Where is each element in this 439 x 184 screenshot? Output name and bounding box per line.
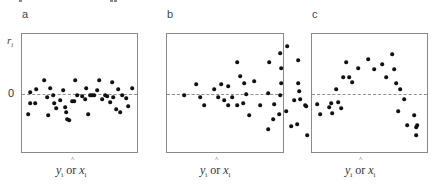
data-point — [198, 95, 202, 99]
data-point — [63, 105, 67, 109]
data-point — [247, 113, 251, 117]
data-point — [64, 110, 68, 114]
data-point — [242, 81, 246, 85]
data-point — [341, 75, 345, 79]
data-point — [396, 109, 400, 113]
data-point — [222, 98, 226, 102]
data-point — [238, 74, 242, 78]
data-point — [54, 106, 58, 110]
data-point — [28, 101, 32, 105]
data-point — [73, 78, 77, 82]
data-point — [46, 113, 50, 117]
data-point — [297, 89, 301, 93]
panel-c-plot — [311, 33, 428, 153]
data-point — [304, 104, 308, 108]
data-point — [305, 133, 309, 137]
data-point — [108, 100, 112, 104]
data-point — [272, 102, 276, 106]
data-point — [266, 127, 270, 131]
data-point — [278, 51, 282, 55]
data-point — [414, 133, 418, 137]
data-point — [105, 94, 109, 98]
data-point — [86, 112, 90, 116]
data-point — [372, 67, 376, 71]
data-point — [45, 95, 49, 99]
data-point — [100, 97, 104, 101]
data-point — [235, 60, 239, 64]
data-point — [126, 104, 130, 108]
data-point — [278, 93, 282, 97]
data-point — [34, 87, 38, 91]
data-point — [84, 86, 88, 90]
data-point — [329, 101, 333, 105]
data-point — [252, 79, 256, 83]
data-point — [415, 123, 419, 127]
x-axis-label-c: yi or xi — [345, 163, 376, 179]
data-point — [120, 93, 124, 97]
data-point — [296, 58, 300, 62]
data-point — [48, 86, 52, 90]
data-point — [97, 78, 101, 82]
clipped-top-text — [0, 0, 439, 3]
x-axis-label-b: yi or xi — [200, 163, 231, 179]
data-point — [42, 78, 46, 82]
data-point — [182, 93, 186, 97]
data-point — [295, 122, 299, 126]
x-axis-label-a: yi or xi — [56, 163, 87, 179]
data-point — [244, 92, 248, 96]
data-point — [296, 81, 300, 85]
data-point — [405, 123, 409, 127]
data-point — [380, 62, 384, 66]
data-point — [402, 97, 406, 101]
panel-a-label: a — [22, 8, 28, 20]
data-point — [130, 86, 134, 90]
data-point — [318, 112, 322, 116]
data-point — [226, 84, 230, 88]
data-point — [336, 100, 340, 104]
data-point — [339, 106, 343, 110]
data-point — [235, 103, 239, 107]
data-point — [292, 98, 296, 102]
data-point — [216, 95, 220, 99]
data-point — [75, 93, 79, 97]
hat-mark: ^ — [215, 155, 218, 163]
data-point — [118, 110, 122, 114]
data-point — [356, 66, 360, 70]
data-point — [330, 111, 334, 115]
data-point — [284, 109, 288, 113]
data-point — [258, 103, 262, 107]
data-point — [279, 66, 283, 70]
data-point — [384, 75, 388, 79]
data-point — [298, 97, 302, 101]
data-point — [315, 102, 319, 106]
data-point — [327, 105, 331, 109]
data-point — [219, 82, 223, 86]
data-point — [266, 91, 270, 95]
data-point — [72, 99, 76, 103]
data-point — [212, 87, 216, 91]
data-point — [226, 103, 230, 107]
data-point — [95, 88, 99, 92]
data-point — [61, 88, 65, 92]
data-point — [267, 60, 271, 64]
data-point — [241, 101, 245, 105]
data-point — [390, 52, 394, 56]
hat-mark: ^ — [359, 155, 362, 163]
data-point — [392, 67, 396, 71]
data-point — [398, 87, 402, 91]
data-point — [412, 113, 416, 117]
data-point — [230, 95, 234, 99]
data-point — [366, 57, 370, 61]
panel-c-label: c — [312, 8, 318, 20]
data-point — [289, 124, 293, 128]
data-point — [279, 81, 283, 85]
data-point — [114, 107, 118, 111]
data-point — [51, 93, 55, 97]
data-point — [285, 44, 289, 48]
y-axis-label: ri — [7, 34, 13, 49]
data-point — [111, 95, 115, 99]
data-point — [194, 82, 198, 86]
data-point — [92, 93, 96, 97]
data-point — [116, 87, 120, 91]
panel-b-label: b — [167, 8, 173, 20]
